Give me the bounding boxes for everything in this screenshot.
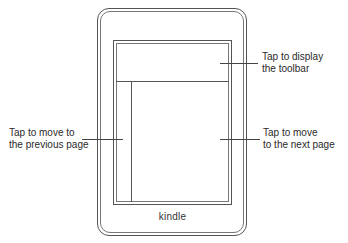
kindle-logo: kindle — [150, 211, 195, 222]
previous-page-callout-line2: the previous page — [9, 139, 89, 151]
page-zone-divider — [131, 81, 132, 202]
toolbar-pointer-line — [220, 63, 258, 64]
toolbar-callout-line2: the toolbar — [262, 63, 323, 75]
next-page-tap-zone[interactable] — [132, 82, 228, 201]
next-page-callout: Tap to move to the next page — [263, 127, 335, 151]
next-page-callout-line1: Tap to move — [263, 127, 335, 139]
toolbar-callout: Tap to display the toolbar — [262, 51, 323, 75]
previous-page-callout-line1: Tap to move to — [9, 127, 89, 139]
toolbar-zone-divider — [116, 81, 229, 82]
toolbar-callout-line1: Tap to display — [262, 51, 323, 63]
previous-page-tap-zone[interactable] — [117, 82, 131, 201]
toolbar-tap-zone[interactable] — [117, 44, 228, 81]
next-page-pointer-line — [220, 139, 260, 140]
next-page-callout-line2: to the next page — [263, 139, 335, 151]
previous-page-callout: Tap to move to the previous page — [9, 127, 89, 151]
